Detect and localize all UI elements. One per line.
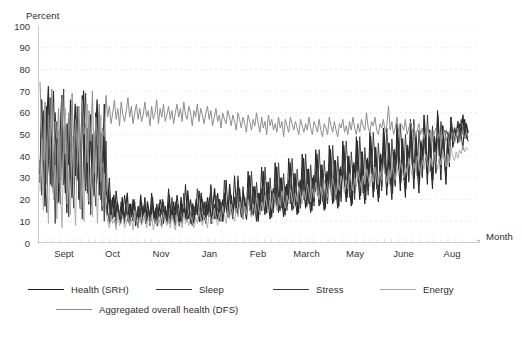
legend-item-label: Energy <box>423 284 454 295</box>
legend: Health (SRH)SleepStressEnergyAggregated … <box>28 280 498 328</box>
x-tick-label: Aug <box>430 249 474 259</box>
legend-item-label: Health (SRH) <box>71 284 129 295</box>
legend-item[interactable]: Stress <box>273 282 344 296</box>
y-tick-label: 20 <box>4 195 30 204</box>
y-tick-label: 60 <box>4 108 30 117</box>
y-tick-label: 70 <box>4 87 30 96</box>
y-tick-label: 100 <box>4 22 30 31</box>
y-tick-label: 30 <box>4 173 30 182</box>
x-tick-label: Sept <box>42 249 86 259</box>
y-tick-label: 90 <box>4 43 30 52</box>
x-tick-label: Feb <box>236 249 280 259</box>
legend-item[interactable]: Sleep <box>156 282 224 296</box>
legend-color-swatch <box>273 289 309 290</box>
legend-color-swatch <box>156 289 192 290</box>
y-tick-label: 0 <box>4 239 30 248</box>
x-tick-label: March <box>285 249 329 259</box>
chart-screenshot: Percent Month 1009080706050403020100 Sep… <box>0 0 522 337</box>
legend-item[interactable]: Aggregated overall health (DFS) <box>56 302 238 316</box>
y-tick-label: 50 <box>4 130 30 139</box>
legend-color-swatch <box>380 289 416 290</box>
plot-svg <box>38 26 480 243</box>
y-tick-label: 80 <box>4 65 30 74</box>
legend-color-swatch <box>28 289 64 290</box>
legend-item-label: Sleep <box>199 284 224 295</box>
x-axis-title: Month <box>486 231 513 242</box>
y-axis-title: Percent <box>26 10 59 21</box>
legend-item-label: Stress <box>316 284 344 295</box>
x-tick-label: May <box>333 249 377 259</box>
x-tick-label: Jan <box>188 249 232 259</box>
legend-item[interactable]: Energy <box>380 282 454 296</box>
legend-item-label: Aggregated overall health (DFS) <box>99 304 238 315</box>
y-tick-label: 40 <box>4 152 30 161</box>
y-tick-label: 10 <box>4 217 30 226</box>
x-tick-label: June <box>382 249 426 259</box>
legend-color-swatch <box>56 309 92 310</box>
x-tick-label: Nov <box>139 249 183 259</box>
x-tick-label: Oct <box>91 249 135 259</box>
plot-area <box>38 26 480 243</box>
legend-item[interactable]: Health (SRH) <box>28 282 129 296</box>
